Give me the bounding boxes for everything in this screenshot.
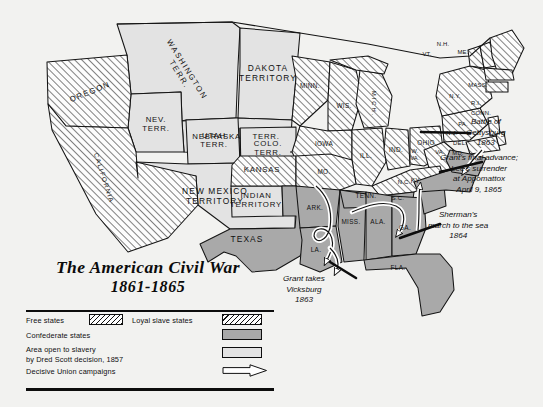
legend-swatch-loyal-slave-states [222, 314, 262, 325]
legend-body: Free states Loyal slave states Confedera… [26, 312, 274, 388]
legend-label-union-campaigns: Decisive Union campaigns [26, 367, 116, 376]
legend-label-free-states: Free states [26, 316, 64, 325]
page-title: The American Civil War [26, 258, 270, 277]
civil-war-map: WASHINGTON TERR. DAKOTA TERRITORY NEBRAS… [0, 0, 543, 407]
legend-swatch-confederate-states [222, 329, 262, 340]
leader-gettysburg [421, 132, 470, 133]
title-block: The American Civil War 1861-1865 [26, 258, 270, 296]
legend-swatch-free-states [89, 314, 123, 325]
legend: Free states Loyal slave states Confedera… [26, 310, 274, 391]
leader-vicksburg [330, 262, 356, 278]
legend-rule-bottom [26, 388, 274, 390]
legend-label-loyal-slave-states: Loyal slave states [132, 316, 193, 325]
legend-label-slavery-area: Area open to slavery by Dred Scott decis… [26, 345, 123, 364]
page-subtitle: 1861-1865 [26, 278, 270, 296]
legend-swatch-union-campaign-arrow [222, 364, 268, 377]
legend-label-confederate-states: Confederate states [26, 331, 90, 340]
legend-swatch-slavery-area [222, 347, 262, 358]
